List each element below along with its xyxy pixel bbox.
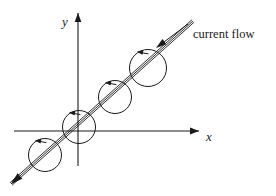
wire-rail-upper	[12, 22, 194, 185]
field-loop-circle	[29, 139, 62, 172]
axes-group: y x	[14, 13, 212, 166]
current-flow-label: current flow	[193, 27, 254, 41]
field-loop-3	[99, 81, 132, 114]
x-axis-arrowhead	[190, 128, 199, 135]
field-loop-circle	[130, 50, 167, 87]
field-loop-4	[130, 50, 167, 87]
field-loop-circle	[63, 111, 96, 144]
y-axis-label: y	[60, 14, 68, 29]
diagram-svg: y x	[0, 0, 276, 196]
current-flow-annotation: current flow	[156, 24, 254, 48]
field-loop-1	[29, 139, 62, 172]
wire-centre-line	[11, 21, 193, 184]
x-axis-label: x	[205, 129, 212, 144]
figure-canvas: y x	[0, 0, 276, 196]
y-axis-arrowhead	[75, 13, 82, 22]
field-loop-2	[63, 111, 96, 144]
current-wire-group	[10, 20, 194, 185]
field-loop-circle	[99, 81, 132, 114]
field-loops-group	[29, 50, 167, 172]
